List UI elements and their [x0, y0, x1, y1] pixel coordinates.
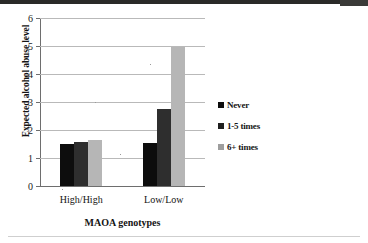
bar-low-low-never	[143, 143, 157, 186]
gridline	[40, 186, 205, 187]
scan-speckle	[62, 189, 63, 190]
bar-high-high-1-5-times	[74, 142, 88, 186]
bar-high-high-never	[60, 144, 74, 186]
y-axis-tick	[36, 18, 40, 19]
scan-artifact-bottom-line	[8, 236, 360, 237]
legend-square-marker-icon	[218, 144, 224, 150]
legend-item: Never	[218, 96, 338, 114]
x-axis-category-label: High/High	[60, 194, 103, 205]
bar-high-high-6-times	[88, 140, 102, 186]
plot-area: 0123456	[40, 18, 205, 186]
legend-item: 1-5 times	[218, 117, 338, 135]
scan-speckle	[120, 154, 121, 155]
legend-square-marker-icon	[218, 123, 224, 129]
y-axis-tick	[36, 186, 40, 187]
scan-speckle	[150, 64, 151, 65]
legend-square-marker-icon	[218, 102, 224, 108]
y-axis-title: Expected alcohol abuse level	[21, 1, 31, 161]
y-axis-tick	[36, 74, 40, 75]
y-axis-tick-label: 2	[28, 125, 33, 136]
plot-inner	[40, 18, 205, 186]
y-axis-tick	[36, 102, 40, 103]
gridline	[40, 18, 205, 19]
y-axis-tick-label: 5	[28, 41, 33, 52]
scan-speckle	[95, 102, 96, 103]
y-axis-tick-label: 4	[28, 69, 33, 80]
bar-low-low-6-times	[171, 47, 185, 186]
y-axis-tick	[36, 158, 40, 159]
bar-low-low-1-5-times	[157, 109, 171, 186]
bar-chart-figure: Expected alcohol abuse level 0123456 MAO…	[0, 4, 368, 243]
x-axis-category-label: Low/Low	[144, 194, 183, 205]
y-axis-tick	[36, 46, 40, 47]
y-axis-tick-label: 6	[28, 13, 33, 24]
chart-legend: Never1-5 times6+ times	[218, 96, 338, 159]
y-axis-tick-label: 0	[28, 181, 33, 192]
y-axis-tick	[36, 130, 40, 131]
legend-item-label: 6+ times	[227, 142, 258, 152]
y-axis-tick-label: 1	[28, 153, 33, 164]
legend-item-label: 1-5 times	[227, 121, 260, 131]
x-axis-title: MAOA genotypes	[40, 217, 205, 228]
legend-item: 6+ times	[218, 138, 338, 156]
y-axis-tick-label: 3	[28, 97, 33, 108]
legend-item-label: Never	[227, 100, 249, 110]
